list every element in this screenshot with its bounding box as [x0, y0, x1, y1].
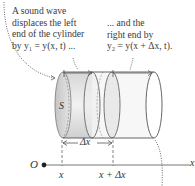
right-pointer-curve: [155, 140, 162, 186]
left-annotation: A sound wave displaces the left end of t…: [12, 5, 84, 51]
right-annotation: ... and the right end by y₂ = y(x + Δx, …: [107, 17, 172, 52]
origin-dot: [42, 163, 47, 168]
x-tick-label: x: [59, 169, 63, 180]
left-end-displaced: [84, 72, 100, 138]
delta-x-label: Δx: [80, 136, 90, 147]
area-label: S: [59, 100, 64, 111]
x-plus-dx-tick-label: x + Δx: [99, 169, 126, 180]
right-end-original: [104, 72, 120, 138]
origin-label: O: [30, 158, 38, 170]
axis-label: x: [190, 157, 194, 168]
right-end-displaced: [146, 72, 162, 138]
